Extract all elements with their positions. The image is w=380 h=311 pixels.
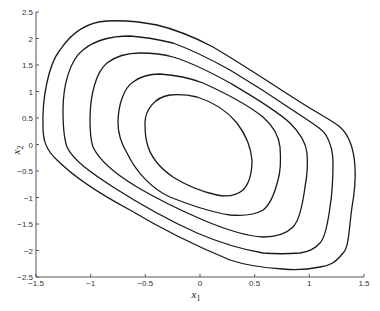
- x-tick-label: −0.5: [137, 279, 153, 288]
- contour-level-1: [145, 95, 252, 196]
- contour-level-2: [118, 74, 281, 215]
- contour-plot: 2.521.510.50−0.5−1−1.5−2−2.5 −1.5−1−0.50…: [0, 0, 380, 311]
- y-tick-label: 1.5: [22, 61, 34, 70]
- x-tick-label: 1.5: [358, 279, 370, 288]
- contour-level-5: [43, 21, 355, 270]
- y-tick-label: 0: [29, 141, 34, 150]
- contour-level-4: [63, 36, 333, 254]
- y-tick-label: −1.5: [17, 220, 33, 229]
- y-tick-label: 0.5: [22, 114, 34, 123]
- y-axis-label: x2: [10, 146, 25, 156]
- x-tick-label: −1: [86, 279, 96, 288]
- y-tick-label: −2: [24, 247, 34, 256]
- y-tick-label: −1: [24, 194, 34, 203]
- x-tick-label: 1: [307, 279, 312, 288]
- x-tick-label: 0.5: [249, 279, 261, 288]
- x-axis-label: x1: [191, 288, 201, 303]
- y-tick-label: 2: [29, 35, 34, 44]
- y-tick-label: 2.5: [22, 8, 34, 17]
- x-tick-label: −1.5: [28, 279, 44, 288]
- y-tick-label: −0.5: [17, 167, 33, 176]
- x-tick-label: 0: [198, 279, 203, 288]
- y-tick-label: 1: [29, 88, 34, 97]
- x-ticks: −1.5−1−0.500.511.5: [28, 274, 370, 288]
